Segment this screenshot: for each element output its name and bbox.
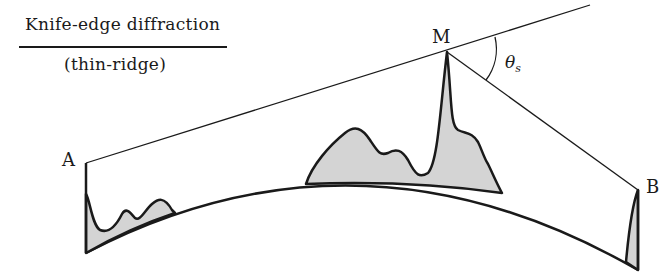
angle-subscript: s [515, 62, 521, 75]
angle-arc [486, 37, 496, 80]
terrain-near-b [626, 190, 638, 270]
terrain-central-ridge [306, 52, 502, 193]
angle-label: θs [505, 52, 521, 75]
figure-title: Knife-edge diffraction [25, 14, 220, 34]
title-underline [19, 46, 227, 48]
diagram-svg [0, 0, 666, 273]
point-label-m: M [432, 26, 450, 47]
point-label-a: A [62, 149, 75, 170]
angle-symbol: θ [505, 52, 515, 72]
point-label-b: B [646, 176, 659, 197]
figure-subtitle: (thin-ridge) [64, 54, 166, 74]
earth-curvature-line [86, 186, 638, 270]
terrain-near-a [86, 194, 175, 253]
diagram-canvas: Knife-edge diffraction (thin-ridge) A M … [0, 0, 666, 273]
